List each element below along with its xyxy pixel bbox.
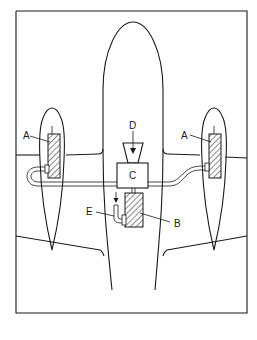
left-wing-trailing-edge — [16, 236, 104, 256]
aircraft-diagram: A A D C E B — [0, 0, 257, 340]
component-B-connector — [122, 215, 126, 225]
leader-B — [140, 213, 170, 222]
right-unit-A — [209, 134, 221, 178]
left-wing-leading-edge-inner — [66, 149, 103, 155]
pipe-E-inner — [118, 205, 122, 219]
right-pipe-outer — [148, 170, 205, 186]
right-wing-leading-edge-inner — [163, 149, 200, 155]
arrow-D-head — [130, 148, 136, 154]
left-unit-A-connector — [45, 165, 49, 173]
label-A-left: A — [23, 130, 30, 141]
right-pipe-inner — [148, 166, 205, 182]
right-wing-trailing-edge — [163, 236, 247, 256]
fuselage — [103, 22, 163, 290]
label-C: C — [129, 170, 136, 181]
right-unit-A-connector — [205, 163, 209, 171]
label-A-right: A — [181, 130, 188, 141]
arrow-E-head — [114, 198, 119, 203]
left-unit-A — [48, 134, 60, 178]
label-E: E — [86, 206, 93, 217]
right-wing-leading-edge — [225, 157, 247, 158]
leader-A-right — [190, 135, 211, 142]
label-B: B — [174, 218, 181, 229]
label-D: D — [129, 120, 136, 131]
component-B — [125, 193, 143, 227]
left-pipe-inner — [31, 171, 117, 182]
